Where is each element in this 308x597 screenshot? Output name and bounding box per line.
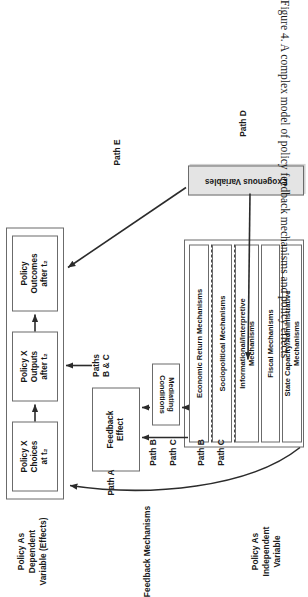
informational-interpretive-mechanisms-label: Informational/Interpretive Mechanisms [238,298,256,388]
path-b-lower-label: Path B [196,431,207,473]
sociopolitical-mechanisms[interactable]: Sociopolitical Mechanisms [212,244,232,442]
mechanism-separator-1 [211,244,212,442]
path-d-label: Path D [238,101,249,145]
paths-b-and-c-label: Paths B & C [92,345,111,385]
figure-caption-wrap: Figure 4. A complex model of policy feed… [274,0,291,597]
policy-outcomes-t2[interactable]: Policy Outcomes after t₂ [12,235,58,311]
mediating-conditions-upper[interactable]: Mediating Conditions [152,363,180,425]
path-b-upper-label: Path B [148,431,159,473]
mechanism-separator-2 [234,244,235,442]
policy-outcomes-t2-label: Policy Outcomes after t₂ [20,253,50,293]
sociopolitical-mechanisms-label: Sociopolitical Mechanisms [218,295,227,391]
feedback-effect[interactable]: Feedback Effect [92,387,140,471]
policy-outputs-t2-label: Policy X Outputs after t₂ [20,350,50,382]
figure-rotated-canvas: Policy As Dependent Variable (Effects)Fe… [0,0,308,597]
path-a-label: Path A [106,459,117,505]
feedback-effect-label: Feedback Effect [106,410,126,448]
figure-caption: Figure 4. A complex model of policy feed… [279,0,291,597]
path-e-label: Path E [112,130,123,174]
informational-interpretive-mechanisms[interactable]: Informational/Interpretive Mechanisms [235,244,259,442]
band-label-policy-dependent: Policy As Dependent Variable (Effects) [16,505,49,597]
policy-feedback-diagram: Policy As Dependent Variable (Effects)Fe… [0,0,308,597]
path-c-lower-label: Path C [216,431,227,473]
economic-return-mechanisms[interactable]: Economic Return Mechanisms [189,244,209,442]
economic-return-mechanisms-label: Economic Return Mechanisms [195,288,204,397]
mediating-conditions-upper-label: Mediating Conditions [157,375,175,414]
policy-outputs-t2[interactable]: Policy X Outputs after t₂ [12,331,58,401]
path-c-upper-label: Path C [168,431,179,473]
band-label-feedback-mechanisms: Feedback Mechanisms [142,505,153,597]
policy-choices-t2-label: Policy X Choices at t₂ [20,440,50,472]
policy-choices-t2[interactable]: Policy X Choices at t₂ [12,421,58,491]
